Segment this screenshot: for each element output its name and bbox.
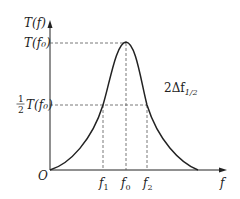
resonance-curve [50, 42, 198, 170]
x-axis-arrow-icon [219, 168, 227, 173]
tick-f1: f1 [98, 176, 109, 192]
x-axis-label: f [219, 176, 227, 190]
tick-f0: f0 [120, 176, 131, 192]
origin-label: O [38, 169, 48, 183]
peak-label: T(f₀) [24, 36, 51, 50]
half-fraction-denominator: 2 [18, 105, 24, 115]
y-axis-label: T(f) [24, 16, 46, 30]
resonance-curve-diagram: T(f) T(f₀) 1 2 T(f₀) 2Δf1/2 O f1 f0 f2 f [0, 0, 240, 199]
y-axis-arrow-icon [48, 20, 53, 28]
diagram-canvas: T(f) T(f₀) 1 2 T(f₀) 2Δf1/2 O f1 f0 f2 f [0, 0, 240, 199]
tick-f2: f2 [142, 176, 153, 192]
half-max-label: T(f₀) [26, 98, 53, 112]
half-fraction-numerator: 1 [18, 94, 24, 104]
bandwidth-label: 2Δf1/2 [164, 81, 198, 97]
